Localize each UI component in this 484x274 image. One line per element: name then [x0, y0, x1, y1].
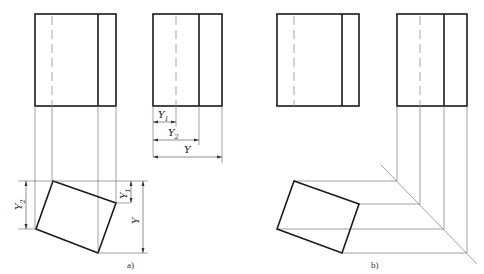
rot-dim-y-label: Y	[130, 216, 141, 224]
panel-a-projection-lines	[35, 106, 222, 253]
panel-a-front-view	[35, 14, 116, 106]
rot-dim-y1-label: Y1	[118, 188, 132, 199]
rot-dim-y2-label: Y2	[13, 199, 27, 210]
caption-b: b)	[371, 260, 379, 270]
panel-b: b)	[277, 14, 477, 270]
panel-a-side-view	[153, 14, 222, 106]
panel-a-rotated-dimensions: Y2 Y1 Y	[13, 181, 145, 253]
panel-b-horizontal-lines	[277, 181, 467, 253]
panel-b-front-view	[277, 14, 359, 106]
orthographic-projection-figure: Y1 Y2 Y Y2 Y1 Y	[0, 0, 484, 274]
caption-a: a)	[127, 260, 134, 270]
dim-y2-label: Y2	[168, 127, 179, 141]
miter-line	[381, 165, 477, 264]
panel-a: Y1 Y2 Y Y2 Y1 Y	[13, 14, 222, 270]
panel-b-projection-lines	[397, 106, 467, 253]
dim-y-label: Y	[184, 144, 192, 155]
dim-y1-label: Y1	[158, 109, 169, 123]
panel-a-side-dimensions: Y1 Y2 Y	[153, 109, 222, 159]
panel-b-side-view	[397, 14, 467, 106]
panel-b-rotated-view	[277, 181, 359, 253]
